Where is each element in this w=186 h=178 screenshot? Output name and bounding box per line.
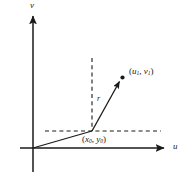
paren-close-xy: ) <box>103 134 106 144</box>
point-label-xy: (x0, y0) <box>82 135 106 145</box>
point-label-uv: (u1, v1) <box>129 67 154 77</box>
diagram-svg <box>0 0 186 178</box>
v-axis-label: v <box>30 1 34 10</box>
vector-r-line <box>92 82 120 132</box>
u-axis-label: u <box>173 142 178 151</box>
vector-r-label: r <box>97 95 100 103</box>
figure-canvas: v u r (u1, v1) (x0, y0) <box>0 0 186 178</box>
point-dot-uv <box>120 75 124 79</box>
paren-close-uv: ) <box>151 66 154 76</box>
